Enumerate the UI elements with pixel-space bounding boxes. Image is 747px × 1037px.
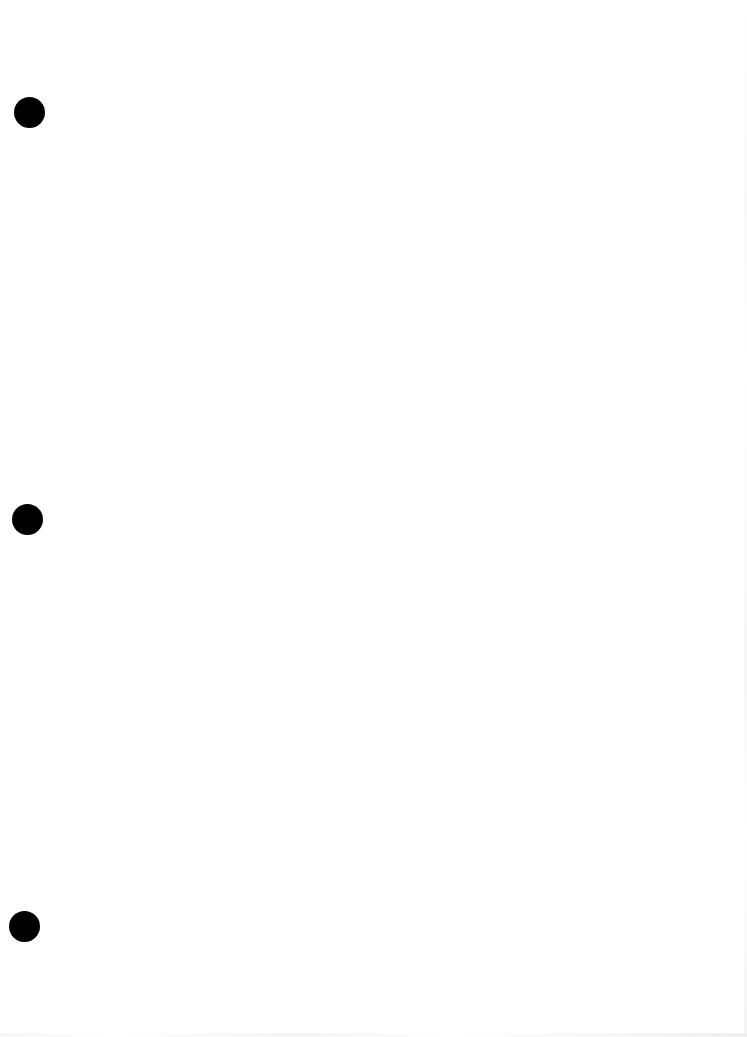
punch-hole-middle [12, 504, 43, 535]
page-text [0, 0, 1, 1]
punch-hole-bottom [9, 911, 40, 942]
punch-hole-top [14, 97, 45, 128]
scan-edge-bottom [0, 1033, 747, 1037]
blank-document-page [0, 0, 747, 1037]
